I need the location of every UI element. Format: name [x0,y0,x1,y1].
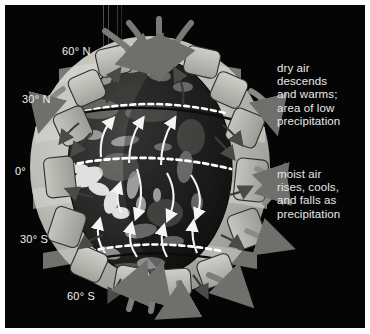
figure-root: 60° N 30° N 0° 30° S 60° S dry air desce… [0,0,370,334]
polar-plume-arrows-south [129,275,239,311]
polar-plume-arrows-north [105,19,191,63]
latitude-label-30s: 30° S [20,233,48,245]
image-plate: 60° N 30° N 0° 30° S 60° S dry air desce… [5,5,365,328]
latitude-label-30n: 30° N [22,93,51,105]
latitude-label-60n: 60° N [62,45,91,57]
callout-moist-air: moist air rises, cools, and falls as pre… [277,168,340,221]
latitude-label-60s: 60° S [67,290,95,302]
globe-diagram [33,17,283,313]
circulation-arrow-layer [33,17,283,313]
cell-circulation-arrows [63,73,247,297]
latitude-label-equator: 0° [15,165,26,177]
exterior-flow-arrows-right [247,91,279,243]
callout-dry-air: dry air descends and warms; area of low … [277,62,340,128]
